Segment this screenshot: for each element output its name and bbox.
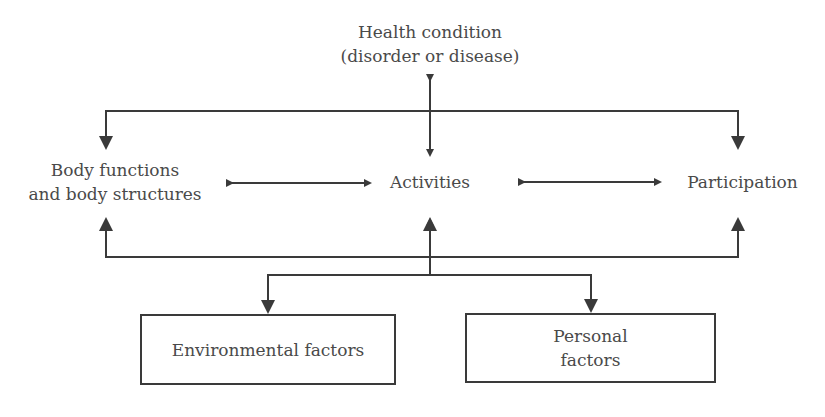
body-functions-node: Body functions and body structures xyxy=(20,158,210,206)
personal-factors-box: Personal factors xyxy=(465,313,716,383)
body-functions-line1: Body functions xyxy=(20,158,210,182)
environmental-factors-label: Environmental factors xyxy=(172,338,365,362)
health-condition-title: Health condition xyxy=(330,20,530,44)
arrow-to-body-top xyxy=(99,136,113,150)
environmental-factors-box: Environmental factors xyxy=(140,314,396,385)
arrow-to-participation-top xyxy=(731,136,745,150)
arrow-to-personal xyxy=(584,299,598,313)
body-functions-line2: and body structures xyxy=(20,182,210,206)
activities-node: Activities xyxy=(380,170,480,194)
health-condition-node: Health condition (disorder or disease) xyxy=(330,20,530,68)
personal-factors-line1: Personal xyxy=(553,324,627,348)
arrow-to-environmental xyxy=(261,300,275,314)
arrow-to-body-bottom xyxy=(99,217,113,231)
arrow-to-participation-bottom xyxy=(731,217,745,231)
health-condition-subtitle: (disorder or disease) xyxy=(330,44,530,68)
personal-factors-line2: factors xyxy=(553,348,627,372)
arrow-to-activities-bottom xyxy=(423,217,437,231)
participation-node: Participation xyxy=(680,170,805,194)
